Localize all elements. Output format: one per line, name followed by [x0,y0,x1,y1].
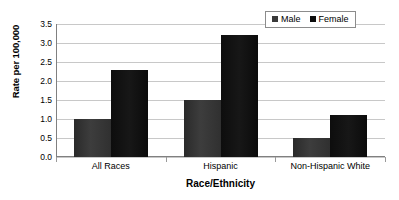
legend-label: Male [281,14,301,24]
y-axis-tick-label: 2.5 [26,58,52,66]
x-axis-category-label: All Races [56,161,166,171]
x-axis-category-labels: All RacesHispanicNon-Hispanic White [56,161,385,171]
bar-group [166,24,276,157]
bar-male[interactable] [74,119,111,157]
bar-male[interactable] [293,138,330,157]
bar-groups [56,24,385,157]
bar-group [275,24,385,157]
bar-female[interactable] [330,115,367,157]
bar-female[interactable] [111,70,148,157]
bar-chart: Rate per 100,000 3.53.02.52.01.51.00.50.… [0,0,399,200]
plot-area [56,24,385,157]
y-axis-tick-label: 1.0 [26,115,52,123]
legend: MaleFemale [265,11,356,28]
y-axis-tick-labels: 3.53.02.52.01.51.00.50.0 [26,24,52,157]
y-axis-title: Rate per 100,000 [10,2,21,122]
legend-entry[interactable]: Male [272,14,301,24]
legend-swatch-female-icon [310,16,316,22]
y-axis-tick-label: 3.5 [26,20,52,28]
legend-label: Female [319,14,349,24]
bar-male[interactable] [184,100,221,157]
x-axis-title: Race/Ethnicity [56,178,385,189]
y-axis-tick-label: 0.5 [26,134,52,142]
bar-female[interactable] [221,35,258,157]
y-axis-tick-label: 2.0 [26,77,52,85]
y-axis-tick-label: 0.0 [26,153,52,161]
legend-entry[interactable]: Female [310,14,349,24]
y-axis-tick-label: 3.0 [26,39,52,47]
x-axis-category-label: Non-Hispanic White [275,161,385,171]
x-axis-tick-mark [385,157,386,162]
bar-group [56,24,166,157]
x-axis-category-label: Hispanic [166,161,276,171]
y-axis-tick-label: 1.5 [26,96,52,104]
legend-swatch-male-icon [272,16,278,22]
